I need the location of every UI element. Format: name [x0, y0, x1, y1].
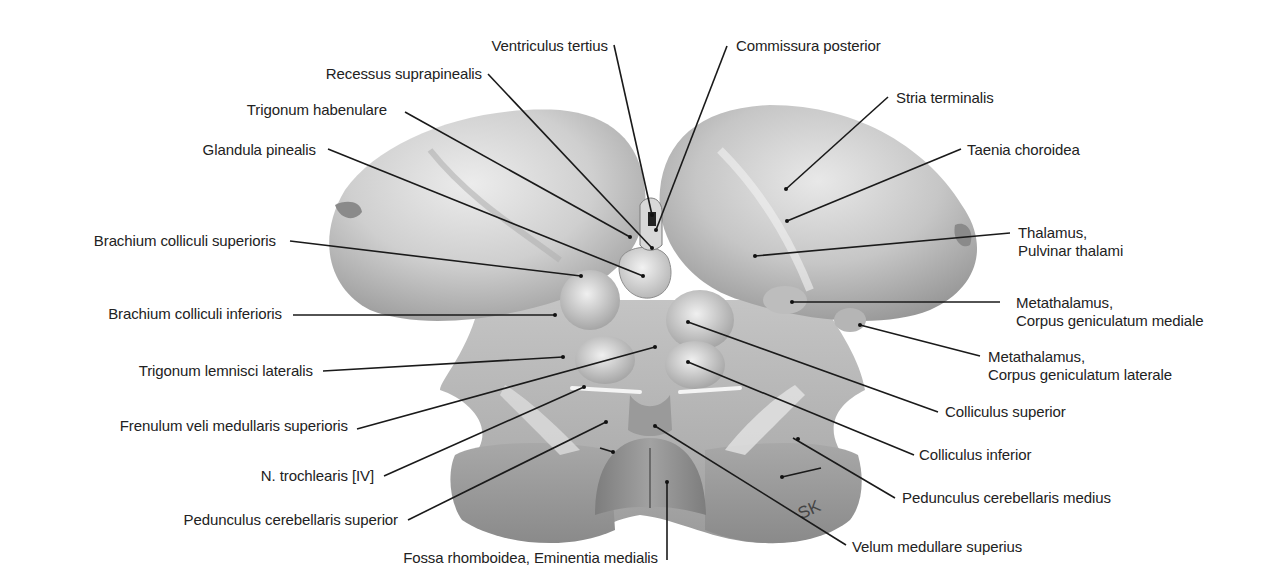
label-ventriculus-tertius: Ventriculus tertius — [492, 37, 609, 55]
label-thalamus-line2: Pulvinar thalami — [1018, 242, 1123, 260]
label-n-trochlearis: N. trochlearis [IV] — [261, 467, 374, 485]
thalamus-right — [660, 105, 978, 321]
colliculus-superior-right — [666, 290, 734, 350]
label-glandula-pinealis: Glandula pinealis — [203, 141, 316, 159]
label-taenia-choroidea: Taenia choroidea — [967, 141, 1080, 159]
label-pedunculus-superior: Pedunculus cerebellaris superior — [184, 511, 398, 529]
label-cgl-line1: Metathalamus, — [988, 348, 1172, 366]
label-thalamus-line1: Thalamus, — [1018, 224, 1123, 242]
label-corpus-geniculatum-mediale: Metathalamus, Corpus geniculatum mediale — [1016, 294, 1204, 330]
label-thalamus-pulvinar: Thalamus, Pulvinar thalami — [1018, 224, 1123, 260]
label-recessus-suprapinealis: Recessus suprapinealis — [326, 65, 482, 83]
label-pedunculus-medius: Pedunculus cerebellaris medius — [902, 489, 1111, 507]
glandula-pinealis — [619, 247, 671, 298]
label-colliculus-inferior: Colliculus inferior — [919, 446, 1031, 464]
label-cgm-line2: Corpus geniculatum mediale — [1016, 312, 1204, 330]
label-fossa-rhomboidea: Fossa rhomboidea, Eminentia medialis — [403, 549, 658, 567]
label-velum-medullare: Velum medullare superius — [852, 538, 1022, 556]
label-stria-terminalis: Stria terminalis — [896, 89, 994, 107]
label-cgm-line1: Metathalamus, — [1016, 294, 1204, 312]
label-frenulum-veli: Frenulum veli medullaris superioris — [120, 417, 348, 435]
label-cgl-line2: Corpus geniculatum laterale — [988, 366, 1172, 384]
label-commissura-posterior: Commissura posterior — [736, 37, 881, 55]
colliculus-superior-left — [560, 270, 620, 330]
label-brachium-colliculi-inferioris: Brachium colliculi inferioris — [108, 305, 282, 323]
label-corpus-geniculatum-laterale: Metathalamus, Corpus geniculatum lateral… — [988, 348, 1172, 384]
label-trigonum-lemnisci-lateralis: Trigonum lemnisci lateralis — [139, 362, 313, 380]
label-brachium-colliculi-superioris: Brachium colliculi superioris — [94, 232, 276, 250]
label-trigonum-habenulare: Trigonum habenulare — [247, 101, 387, 119]
label-colliculus-superior: Colliculus superior — [945, 403, 1066, 421]
pedunculus-right — [705, 443, 862, 543]
anatomy-figure: SK — [0, 0, 1282, 583]
